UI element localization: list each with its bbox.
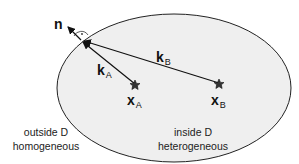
- outside-region-line2: homogeneous: [6, 139, 86, 153]
- vector-ka-subscript: A: [106, 70, 112, 80]
- vector-kb-symbol: k: [156, 49, 164, 65]
- outside-region-label: outside D homogeneous: [6, 125, 86, 153]
- point-xb-symbol: x: [211, 92, 219, 108]
- point-xb-subscript: B: [220, 100, 226, 110]
- point-xa-label: xA: [127, 93, 142, 110]
- normal-vector-arrow: [68, 27, 81, 40]
- vector-ka-symbol: k: [97, 62, 105, 78]
- outside-region-line1: outside D: [6, 125, 86, 139]
- inside-region-label: inside D heterogeneous: [148, 125, 238, 153]
- inside-region-line1: inside D: [148, 125, 238, 139]
- point-xa-symbol: x: [127, 92, 135, 108]
- point-xb-label: xB: [211, 93, 226, 110]
- inside-region-line2: heterogeneous: [148, 139, 238, 153]
- normal-label: n: [54, 17, 63, 31]
- vector-ka-label: kA: [97, 63, 112, 80]
- point-xa-subscript: A: [136, 100, 142, 110]
- vector-kb-label: kB: [156, 50, 171, 67]
- vector-kb-subscript: B: [165, 57, 171, 67]
